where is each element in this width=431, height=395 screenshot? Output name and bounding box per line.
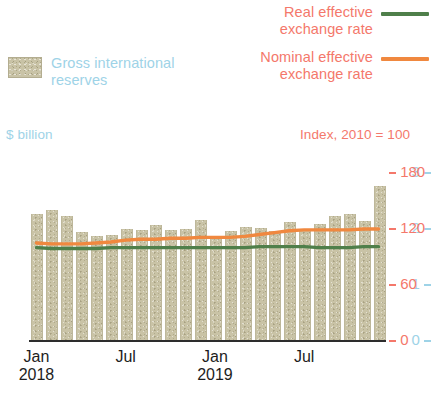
orange-line-key-icon: [381, 57, 429, 61]
right-tick-180: 180: [389, 164, 425, 179]
x-label-month: Jan: [202, 348, 228, 365]
x-label-Jul: Jul: [96, 348, 156, 366]
bar: [61, 216, 73, 340]
bar: [329, 216, 341, 340]
bar: [91, 236, 103, 340]
bar: [121, 229, 133, 340]
x-label-month: Jan: [24, 348, 50, 365]
x-label-Jul: Jul: [274, 348, 334, 366]
x-label-Jan-2019: Jan2019: [185, 348, 245, 384]
green-line-key-icon: [381, 12, 429, 16]
bar: [165, 230, 177, 340]
right-tick-120: 120: [389, 220, 425, 235]
bar: [31, 214, 43, 340]
bar: [284, 222, 296, 340]
bar: [299, 229, 311, 340]
right-tick-60: 60: [389, 276, 417, 291]
x-axis-baseline: [29, 340, 386, 342]
bar: [359, 221, 371, 340]
x-label-Jan-2018: Jan2018: [6, 348, 66, 384]
bar-series-gross-international-reserves: [29, 0, 386, 395]
bar: [195, 220, 207, 340]
bar: [46, 210, 58, 340]
bar: [150, 225, 162, 340]
bar: [314, 224, 326, 340]
bar: [269, 231, 281, 340]
x-label-year: 2018: [6, 366, 66, 384]
bar: [344, 214, 356, 340]
bar: [374, 186, 386, 340]
bar: [180, 229, 192, 340]
bar: [136, 230, 148, 340]
x-label-month: Jul: [294, 348, 314, 365]
x-label-month: Jul: [115, 348, 135, 365]
bar: [76, 232, 88, 340]
right-tick-0: 0: [389, 332, 409, 347]
chart-figure: Gross international reserves Real effect…: [0, 0, 431, 395]
bar: [210, 239, 222, 340]
bar: [240, 227, 252, 340]
bar: [255, 228, 267, 340]
x-label-year: 2019: [185, 366, 245, 384]
bar: [106, 235, 118, 340]
bar: [225, 231, 237, 340]
